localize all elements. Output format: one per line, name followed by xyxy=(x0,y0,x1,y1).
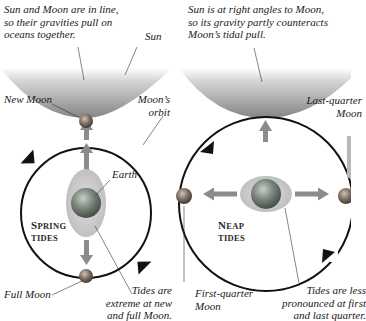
label-line: Last-quarter xyxy=(290,94,362,107)
sun-label: Sun xyxy=(145,30,162,43)
tide-type-rest: PRING xyxy=(37,221,66,231)
orbit-label: Moon’s orbit xyxy=(128,93,170,118)
orbit-label-line: orbit xyxy=(128,106,170,119)
label-line: First-quarter xyxy=(195,287,253,300)
last-quarter-moon-icon xyxy=(338,188,351,204)
note-line: Tides are less xyxy=(266,284,366,297)
orbit-arrow-icon xyxy=(200,141,214,154)
caption-line: Sun is at right angles to Moon, xyxy=(188,3,328,16)
earth-label: Earth xyxy=(112,168,137,181)
last-quarter-label: Last-quarter Moon xyxy=(290,94,362,119)
gravity-arrow-up-icon xyxy=(259,120,272,142)
caption-line: Sun and Moon are in line, xyxy=(4,3,118,16)
neap-panel xyxy=(176,48,351,291)
caption-line: so its gravity partly counteracts xyxy=(188,16,328,29)
label-line: Moon xyxy=(290,107,362,120)
label-line: Moon xyxy=(195,300,253,313)
first-quarter-moon-icon xyxy=(176,188,192,204)
sun-ray-icon xyxy=(347,136,351,178)
new-moon-label: New Moon xyxy=(4,93,52,106)
tide-type-line-1: NEAP xyxy=(218,219,245,232)
first-quarter-label: First-quarter Moon xyxy=(195,287,253,312)
full-moon-label: Full Moon xyxy=(4,288,51,301)
tide-type-line-1: SPRING xyxy=(31,219,66,232)
gravity-arrow-right-icon xyxy=(295,188,329,201)
earth-icon xyxy=(251,179,281,209)
spring-note: Tides are extreme at new and full Moon. xyxy=(96,284,172,321)
note-line: Tides are xyxy=(96,284,172,297)
neap-note: Tides are less pronounced at first and l… xyxy=(266,284,366,321)
full-moon-icon xyxy=(79,269,93,283)
tide-type-rest: EAP xyxy=(226,221,244,231)
tide-type-line-2: TIDES xyxy=(31,232,66,244)
orbit-label-line: Moon’s xyxy=(128,93,170,106)
note-line: and full Moon. xyxy=(96,309,172,321)
earth-icon xyxy=(71,188,101,218)
spring-panel xyxy=(0,47,172,295)
tide-type-line-2: TIDES xyxy=(218,232,245,244)
note-line: extreme at new xyxy=(96,297,172,310)
note-line: pronounced at first xyxy=(266,297,366,310)
caption-line: oceans together. xyxy=(4,28,118,41)
neap-tides-title: NEAP TIDES xyxy=(218,219,245,244)
note-line: and last quarter. xyxy=(266,309,366,321)
caption-line: Moon’s tidal pull. xyxy=(188,28,328,41)
spring-caption: Sun and Moon are in line, so their gravi… xyxy=(4,3,118,41)
caption-line: so their gravities pull on xyxy=(4,16,118,29)
new-moon-icon xyxy=(79,114,93,128)
neap-caption: Sun is at right angles to Moon, so its g… xyxy=(188,3,328,41)
gravity-arrow-left-icon xyxy=(203,188,237,201)
gravity-arrow-down-icon xyxy=(80,240,93,265)
spring-tides-title: SPRING TIDES xyxy=(31,219,66,244)
